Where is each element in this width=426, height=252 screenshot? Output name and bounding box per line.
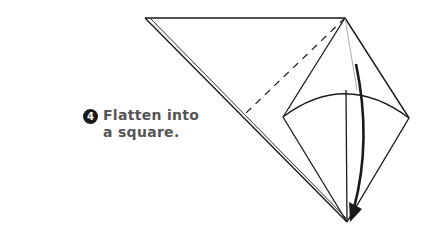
- step-number-badge: 4: [83, 109, 98, 124]
- instruction-line-2: a square.: [103, 124, 199, 141]
- hidden-crease-line: [345, 18, 357, 90]
- valley-fold-line: [246, 18, 345, 113]
- instruction-text: Flatten into a square.: [103, 107, 199, 141]
- step-instruction: 4 Flatten into a square.: [83, 107, 199, 141]
- origami-diagram: [0, 0, 426, 252]
- square-diamond: [283, 18, 409, 222]
- instruction-line-1: Flatten into: [103, 107, 199, 124]
